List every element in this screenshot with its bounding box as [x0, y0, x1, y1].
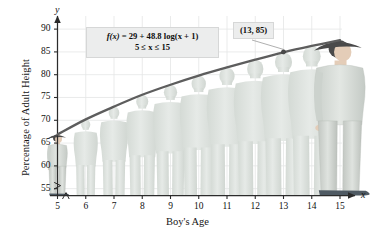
x-tick-label: 9	[161, 201, 181, 211]
x-axis-variable: x	[361, 189, 365, 200]
x-tick-label: 14	[302, 201, 322, 211]
x-tick-label: 13	[274, 201, 294, 211]
formula-expression: f(x) = 29 + 48.8 log(x + 1)	[91, 31, 214, 42]
y-tick-label: 65	[29, 137, 51, 147]
y-tick-label: 90	[29, 23, 51, 33]
callout-leader-line	[252, 40, 284, 49]
x-tick-label: 15	[330, 201, 350, 211]
formula-equals: =	[122, 31, 127, 41]
x-tick-label: 8	[132, 201, 152, 211]
formula-constant: 29	[129, 31, 138, 41]
y-tick-label: 75	[29, 91, 51, 101]
y-tick-label: 60	[29, 160, 51, 170]
x-tick-label: 11	[217, 201, 237, 211]
formula-domain: 5 ≤ x ≤ 15	[91, 42, 214, 53]
y-axis-variable: y	[55, 4, 59, 15]
y-tick-label: 85	[29, 46, 51, 56]
figure-canvas: Percentage of Adult Height Boy's Age y x…	[0, 0, 375, 240]
human-figure-group	[47, 40, 369, 195]
data-point-markers	[281, 50, 285, 54]
x-tick-label: 12	[245, 201, 265, 211]
x-axis-label: Boy's Age	[0, 216, 375, 227]
x-tick-label: 5	[48, 201, 68, 211]
formula-callout: f(x) = 29 + 48.8 log(x + 1) 5 ≤ x ≤ 15	[86, 27, 219, 58]
x-tick-label: 10	[189, 201, 209, 211]
x-tick-label: 6	[76, 201, 96, 211]
point-annotation-label: (13, 85)	[233, 22, 274, 39]
formula-log-term: log(x + 1)	[164, 31, 199, 41]
formula-fx-arg: (x)	[110, 31, 120, 41]
y-tick-label: 70	[29, 114, 51, 124]
formula-coefficient: 48.8	[147, 31, 162, 41]
y-tick-label: 55	[29, 183, 51, 193]
y-tick-label: 80	[29, 69, 51, 79]
x-tick-label: 7	[104, 201, 124, 211]
formula-plus: +	[140, 31, 145, 41]
